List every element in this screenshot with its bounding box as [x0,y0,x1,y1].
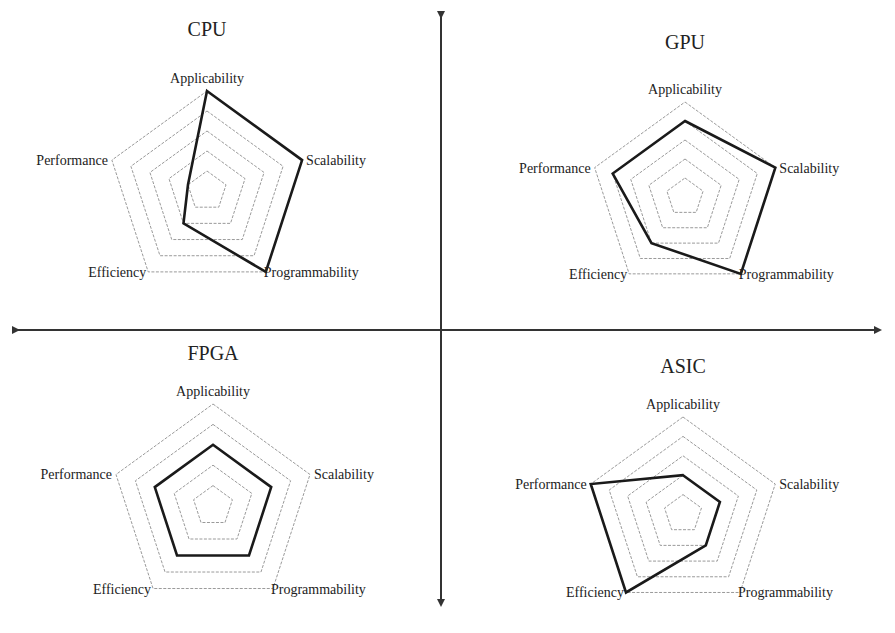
axis-labels: Applicability Scalability Programmabilit… [40,384,373,597]
axis-label-scalability: Scalability [306,153,366,168]
chart-title-cpu: CPU [188,18,227,40]
radar-chart-cpu: CPU Applicability Scalability Programmab… [36,18,366,280]
quadrant-axes [18,17,880,605]
chart-title-fpga: FPGA [187,342,239,364]
axis-label-performance: Performance [40,467,112,482]
chart-title-gpu: GPU [665,31,706,53]
axis-label-scalability: Scalability [314,467,374,482]
grid-ring-2 [174,465,252,539]
axis-label-scalability: Scalability [779,477,839,492]
grid-ring-5 [116,404,310,589]
radar-chart-fpga: FPGA Applicability Scalability Programma… [40,342,373,597]
axis-labels: Applicability Scalability Programmabilit… [515,397,839,600]
axis-label-efficiency: Efficiency [93,582,151,597]
grid-ring-1 [667,178,703,212]
axis-label-performance: Performance [519,161,591,176]
axis-label-efficiency: Efficiency [569,267,627,282]
axis-label-programmability: Programmability [271,582,366,597]
grid-ring-1 [194,486,233,523]
grid-ring-2 [169,151,245,223]
axis-label-programmability: Programmability [739,267,834,282]
radar-chart-figure: CPU Applicability Scalability Programmab… [0,0,895,633]
radar-chart-asic: ASIC Applicability Scalability Programma… [515,355,839,600]
axis-label-performance: Performance [36,153,108,168]
axis-label-efficiency: Efficiency [88,265,146,280]
grid-ring-1 [665,495,702,530]
axis-label-scalability: Scalability [779,161,839,176]
grid-ring-3 [631,140,739,243]
grid-ring-1 [188,171,226,207]
chart-title-asic: ASIC [660,355,706,377]
grid-rings [116,404,310,589]
axis-label-programmability: Programmability [738,585,833,600]
axis-label-applicability: Applicability [170,71,244,86]
axis-label-efficiency: Efficiency [566,585,624,600]
grid-ring-2 [649,159,721,228]
radar-chart-gpu: GPU Applicability Scalability Programmab… [519,31,839,282]
axis-label-applicability: Applicability [648,82,722,97]
axis-label-performance: Performance [515,477,587,492]
axis-label-programmability: Programmability [264,265,359,280]
axis-label-applicability: Applicability [646,397,720,412]
series-polygon-cpu [183,91,302,272]
axis-label-applicability: Applicability [176,384,250,399]
